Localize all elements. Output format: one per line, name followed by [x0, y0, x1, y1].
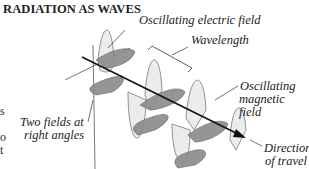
- label-direction-line2: of travel: [265, 155, 307, 168]
- label-wavelength: Wavelength: [191, 34, 249, 47]
- label-right-angles-line2: right angles: [24, 129, 84, 142]
- edge-fragment: t: [0, 143, 3, 158]
- label-magnetic-field-line2: magnetic field: [239, 93, 309, 119]
- label-electric-field: Oscillating electric field: [139, 14, 261, 27]
- edge-fragment: s: [0, 104, 5, 119]
